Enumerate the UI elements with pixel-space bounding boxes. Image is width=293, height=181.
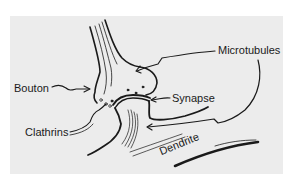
synaptic-cleft <box>113 95 150 108</box>
label-microtubules: Microtubules <box>218 45 280 56</box>
axon <box>90 20 140 103</box>
clathrins-arrow <box>70 104 106 135</box>
label-synapse: Synapse <box>172 93 215 104</box>
label-clathrins: Clathrins <box>25 127 68 138</box>
synapse-arrow <box>151 97 170 102</box>
label-bouton: Bouton <box>14 83 49 94</box>
bouton-arrow <box>52 85 90 92</box>
